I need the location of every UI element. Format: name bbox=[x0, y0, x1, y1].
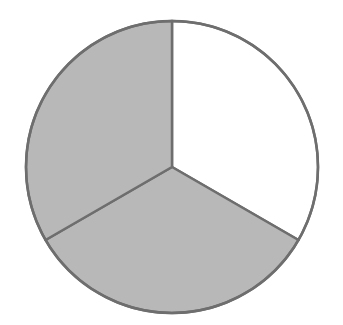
pie-slice-group bbox=[26, 21, 318, 313]
pie-chart-svg bbox=[0, 0, 343, 325]
pie-chart-figure bbox=[0, 0, 343, 325]
